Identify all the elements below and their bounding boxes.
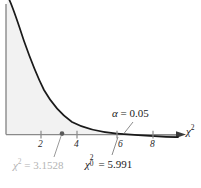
critical-value-scripts: 20 xyxy=(90,157,96,168)
alpha-annotation: α = 0.05 xyxy=(112,108,149,119)
tick-label-8: 8 xyxy=(150,140,155,150)
test-statistic-dot-marker xyxy=(60,131,65,136)
critical-value-annotation: χ20 = 5.991 xyxy=(85,157,132,170)
x-axis-title-exponent: 2 xyxy=(191,123,195,132)
tick-label-4: 4 xyxy=(74,140,79,150)
x-axis-title: χ2 xyxy=(186,124,195,137)
critical-value-value: = 5.991 xyxy=(99,158,133,170)
leader-line-test-statistic xyxy=(54,136,61,157)
chi-square-distribution-figure: 2 4 6 8 χ2 α = 0.05 χ2 = 3.1528 χ20 = 5.… xyxy=(0,0,201,188)
tick-label-6: 6 xyxy=(118,140,123,150)
leader-line-alpha xyxy=(124,122,133,133)
critical-value-subscript: 0 xyxy=(90,160,94,168)
tick-label-2: 2 xyxy=(38,140,43,150)
test-statistic-exponent: 2 xyxy=(18,157,22,166)
alpha-value: = 0.05 xyxy=(121,107,149,119)
test-statistic-value: = 3.1528 xyxy=(24,159,63,171)
test-statistic-annotation: χ2 = 3.1528 xyxy=(13,158,64,171)
alpha-symbol: α xyxy=(112,107,118,119)
